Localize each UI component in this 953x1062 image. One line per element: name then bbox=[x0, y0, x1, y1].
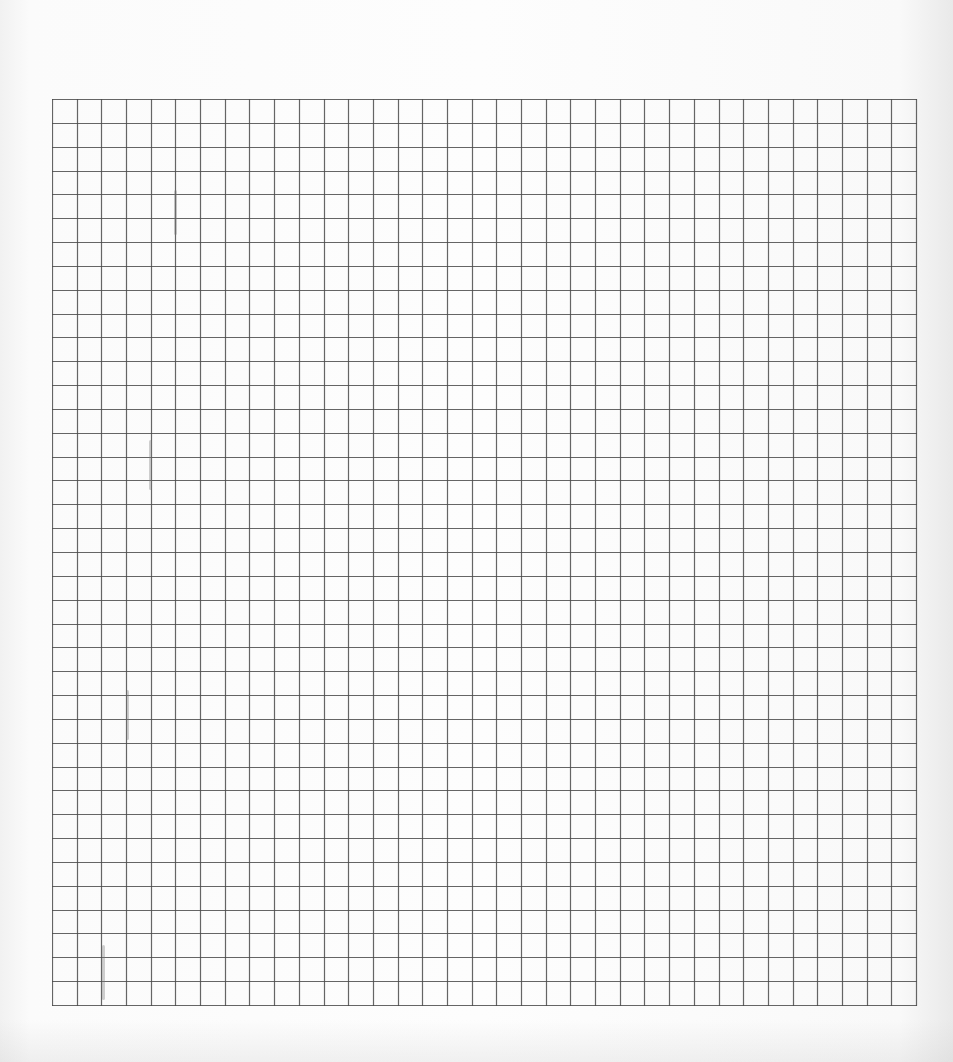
scan-smudge bbox=[149, 440, 152, 490]
scan-smudge bbox=[174, 190, 177, 235]
grid-lines bbox=[52, 99, 918, 1007]
grid-paper-area bbox=[52, 99, 917, 1006]
scan-smudge bbox=[102, 945, 105, 1000]
scan-smudge bbox=[126, 690, 129, 740]
